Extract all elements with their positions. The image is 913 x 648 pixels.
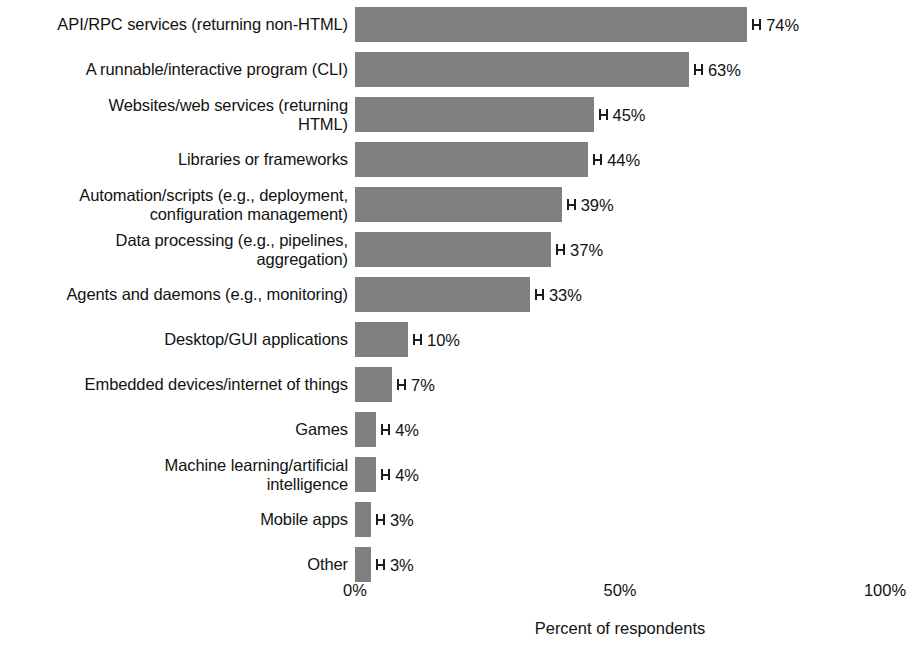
error-bar — [381, 424, 390, 435]
bar-track: 3% — [355, 547, 885, 582]
bar-row: Websites/web services (returning HTML)45… — [0, 92, 913, 137]
category-label: A runnable/interactive program (CLI) — [3, 47, 348, 92]
bar — [355, 187, 562, 222]
bar — [355, 322, 408, 357]
bar-row: Mobile apps3% — [0, 497, 913, 542]
x-tick-label: 100% — [864, 580, 906, 600]
error-bar — [556, 244, 565, 255]
value-label: 74% — [766, 15, 799, 34]
bar-row: Libraries or frameworks44% — [0, 137, 913, 182]
error-bar-cap-left — [397, 379, 399, 390]
bar — [355, 277, 530, 312]
bar-track: 39% — [355, 187, 885, 222]
bar-row: API/RPC services (returning non-HTML)74% — [0, 2, 913, 47]
value-label: 39% — [581, 195, 614, 214]
bar-track: 10% — [355, 322, 885, 357]
value-label: 44% — [607, 150, 640, 169]
error-bar-cap-right — [606, 109, 608, 120]
plot-area: API/RPC services (returning non-HTML)74%… — [0, 0, 913, 580]
error-bar-cap-left — [376, 514, 378, 525]
error-bar-cap-left — [556, 244, 558, 255]
error-bar-cap-left — [413, 334, 415, 345]
x-tick-label: 0% — [343, 580, 367, 600]
bar-track: 3% — [355, 502, 885, 537]
category-label: Data processing (e.g., pipelines, aggreg… — [3, 227, 348, 272]
value-label: 4% — [395, 465, 419, 484]
error-bar — [376, 559, 385, 570]
category-label: Mobile apps — [3, 497, 348, 542]
error-bar-cap-right — [383, 559, 385, 570]
error-bar — [413, 334, 422, 345]
error-bar-cap-left — [381, 469, 383, 480]
bar — [355, 367, 392, 402]
bar-row: A runnable/interactive program (CLI)63% — [0, 47, 913, 92]
bar-row: Machine learning/artificial intelligence… — [0, 452, 913, 497]
bar-row: Games4% — [0, 407, 913, 452]
bar — [355, 457, 376, 492]
x-axis: 0%50%100% — [0, 580, 913, 610]
bar-track: 37% — [355, 232, 885, 267]
bar — [355, 142, 588, 177]
bar-track: 4% — [355, 412, 885, 447]
value-label: 33% — [549, 285, 582, 304]
error-bar-cap-left — [599, 109, 601, 120]
error-bar-cap-right — [600, 154, 602, 165]
bar-chart: API/RPC services (returning non-HTML)74%… — [0, 0, 913, 648]
error-bar-cap-right — [404, 379, 406, 390]
error-bar-cap-left — [381, 424, 383, 435]
bar — [355, 97, 594, 132]
bar-track: 74% — [355, 7, 885, 42]
error-bar — [567, 199, 576, 210]
value-label: 7% — [411, 375, 435, 394]
error-bar-cap-left — [593, 154, 595, 165]
bar-track: 63% — [355, 52, 885, 87]
category-label: API/RPC services (returning non-HTML) — [3, 2, 348, 47]
category-label: Embedded devices/internet of things — [3, 362, 348, 407]
error-bar-cap-right — [563, 244, 565, 255]
bar-row: Embedded devices/internet of things7% — [0, 362, 913, 407]
bar — [355, 412, 376, 447]
error-bar — [593, 154, 602, 165]
category-label: Websites/web services (returning HTML) — [3, 92, 348, 137]
error-bar-cap-left — [376, 559, 378, 570]
bar-row: Agents and daemons (e.g., monitoring)33% — [0, 272, 913, 317]
value-label: 37% — [570, 240, 603, 259]
bar — [355, 547, 371, 582]
bar-track: 7% — [355, 367, 885, 402]
bar-track: 4% — [355, 457, 885, 492]
error-bar-cap-left — [694, 64, 696, 75]
bar — [355, 7, 747, 42]
category-label: Desktop/GUI applications — [3, 317, 348, 362]
error-bar-cap-left — [752, 19, 754, 30]
error-bar-cap-right — [701, 64, 703, 75]
bar-track: 33% — [355, 277, 885, 312]
error-bar — [535, 289, 544, 300]
error-bar — [397, 379, 406, 390]
value-label: 3% — [390, 555, 414, 574]
category-label: Agents and daemons (e.g., monitoring) — [3, 272, 348, 317]
bar — [355, 232, 551, 267]
error-bar-cap-right — [574, 199, 576, 210]
error-bar-cap-right — [542, 289, 544, 300]
error-bar-cap-right — [388, 424, 390, 435]
value-label: 63% — [708, 60, 741, 79]
category-label: Machine learning/artificial intelligence — [3, 452, 348, 497]
x-tick-label: 50% — [603, 580, 636, 600]
error-bar — [599, 109, 608, 120]
bar — [355, 52, 689, 87]
error-bar-cap-right — [388, 469, 390, 480]
category-label: Libraries or frameworks — [3, 137, 348, 182]
error-bar — [694, 64, 703, 75]
bar — [355, 502, 371, 537]
bar-row: Data processing (e.g., pipelines, aggreg… — [0, 227, 913, 272]
bar-track: 44% — [355, 142, 885, 177]
value-label: 3% — [390, 510, 414, 529]
value-label: 4% — [395, 420, 419, 439]
value-label: 10% — [427, 330, 460, 349]
error-bar-cap-right — [383, 514, 385, 525]
error-bar — [376, 514, 385, 525]
error-bar — [752, 19, 761, 30]
bar-row: Desktop/GUI applications10% — [0, 317, 913, 362]
category-label: Automation/scripts (e.g., deployment, co… — [3, 182, 348, 227]
value-label: 45% — [613, 105, 646, 124]
